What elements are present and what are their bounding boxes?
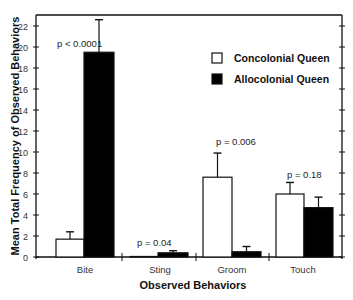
y-tick-label: 0 bbox=[23, 253, 28, 263]
bar-chart: 0246810121416182022p < 0.0001p = 0.04p =… bbox=[0, 0, 353, 300]
y-tick-label: 8 bbox=[23, 169, 28, 179]
legend-swatch-allocolonial bbox=[212, 74, 222, 84]
p-value-annotation: p = 0.04 bbox=[137, 237, 172, 248]
legend-label: Allocolonial Queen bbox=[234, 73, 329, 85]
bar-bite-allocolonial bbox=[84, 52, 114, 257]
x-category-label: Touch bbox=[290, 264, 315, 275]
bar-sting-concolonial bbox=[130, 256, 158, 257]
x-axis-title: Observed Behaviors bbox=[140, 279, 247, 291]
p-value-annotation: p = 0.006 bbox=[216, 136, 256, 147]
x-category-label: Groom bbox=[217, 264, 246, 275]
legend-label: Concolonial Queen bbox=[234, 52, 330, 64]
p-value-annotation: p = 0.18 bbox=[287, 169, 322, 180]
y-axis-title: Mean Total Frequency of Observed Behavio… bbox=[9, 17, 21, 256]
y-tick-label: 4 bbox=[23, 211, 28, 221]
y-tick-label: 2 bbox=[23, 232, 28, 242]
p-value-annotation: p < 0.0001 bbox=[57, 38, 102, 49]
bar-touch-allocolonial bbox=[304, 208, 333, 257]
bar-groom-allocolonial bbox=[232, 252, 261, 257]
bar-sting-allocolonial bbox=[158, 253, 188, 257]
bar-touch-concolonial bbox=[276, 194, 304, 257]
bar-bite-concolonial bbox=[56, 239, 84, 257]
x-category-label: Sting bbox=[149, 264, 171, 275]
y-tick-label: 6 bbox=[23, 190, 28, 200]
legend-swatch-concolonial bbox=[212, 53, 222, 63]
bar-groom-concolonial bbox=[203, 177, 232, 257]
x-category-label: Bite bbox=[77, 264, 93, 275]
